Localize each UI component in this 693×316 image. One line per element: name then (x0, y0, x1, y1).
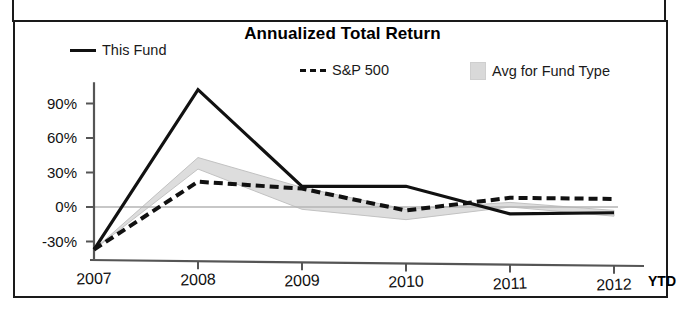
x-axis-tick-label: 2008 (180, 271, 216, 290)
x-axis-ytd-label: YTD (648, 273, 676, 289)
plot-area: 90%60%30%0%-30% 200720082009201020112012… (15, 22, 670, 300)
x-axis-tick-label: 2009 (284, 272, 320, 291)
x-axis-tick-label: 2007 (76, 269, 112, 288)
top-cropped-panel (12, 0, 666, 22)
x-axis-tick-label: 2010 (388, 273, 424, 292)
annualized-total-return-panel: Annualized Total Return This Fund S&P 50… (13, 20, 668, 298)
x-axis-tick-labels: 200720082009201020112012YTD (15, 22, 670, 300)
x-axis-tick-label: 2011 (492, 274, 527, 293)
x-axis-tick-label: 2012 (596, 275, 632, 294)
screenshot-root: Annualized Total Return This Fund S&P 50… (0, 0, 693, 316)
